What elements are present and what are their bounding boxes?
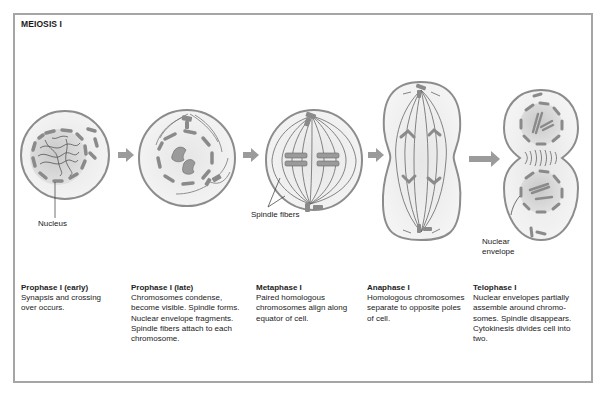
caption-prophase-late: Prophase I (late) Chromosomes condense, …: [131, 283, 243, 344]
stage-name: Anaphase I: [367, 283, 467, 293]
stage-description: Chromosomes condense, become visible. Sp…: [131, 293, 243, 344]
cell-prophase-early: [21, 111, 109, 218]
caption-metaphase: Metaphase I Paired homologous chromosome…: [256, 283, 356, 324]
stage-name: Metaphase I: [256, 283, 356, 293]
arrow-icon: [243, 148, 259, 162]
caption-telophase: Telophase I Nuclear envelopes partially …: [473, 283, 581, 344]
cell-telophase: [504, 90, 578, 240]
label-nuclear-envelope-1: Nuclear: [482, 237, 510, 246]
label-nuclear-envelope-2: envelope: [482, 247, 514, 256]
caption-prophase-early: Prophase I (early) Synapsis and crossing…: [21, 283, 117, 314]
arrow-icon: [368, 148, 384, 162]
label-spindle-fibers: Spindle fibers: [251, 210, 299, 219]
caption-anaphase: Anaphase I Homologous chromosomes separa…: [367, 283, 467, 324]
stage-description: Homologous chromosomes separate to oppos…: [367, 293, 467, 324]
cell-prophase-late: [139, 110, 235, 206]
stage-name: Prophase I (late): [131, 283, 243, 293]
stage-name: Telophase I: [473, 283, 581, 293]
stage-description: Synapsis and crossing over occurs.: [21, 293, 117, 313]
stage-description: Paired homologous chromosomes align alon…: [256, 293, 356, 324]
cell-metaphase: [266, 110, 362, 212]
arrow-icon: [469, 151, 500, 167]
cell-anaphase: [383, 82, 461, 240]
stage-description: Nuclear envelopes partially assemble aro…: [473, 293, 581, 344]
stage-name: Prophase I (early): [21, 283, 117, 293]
arrow-icon: [118, 148, 134, 162]
label-nucleus: Nucleus: [38, 219, 67, 228]
